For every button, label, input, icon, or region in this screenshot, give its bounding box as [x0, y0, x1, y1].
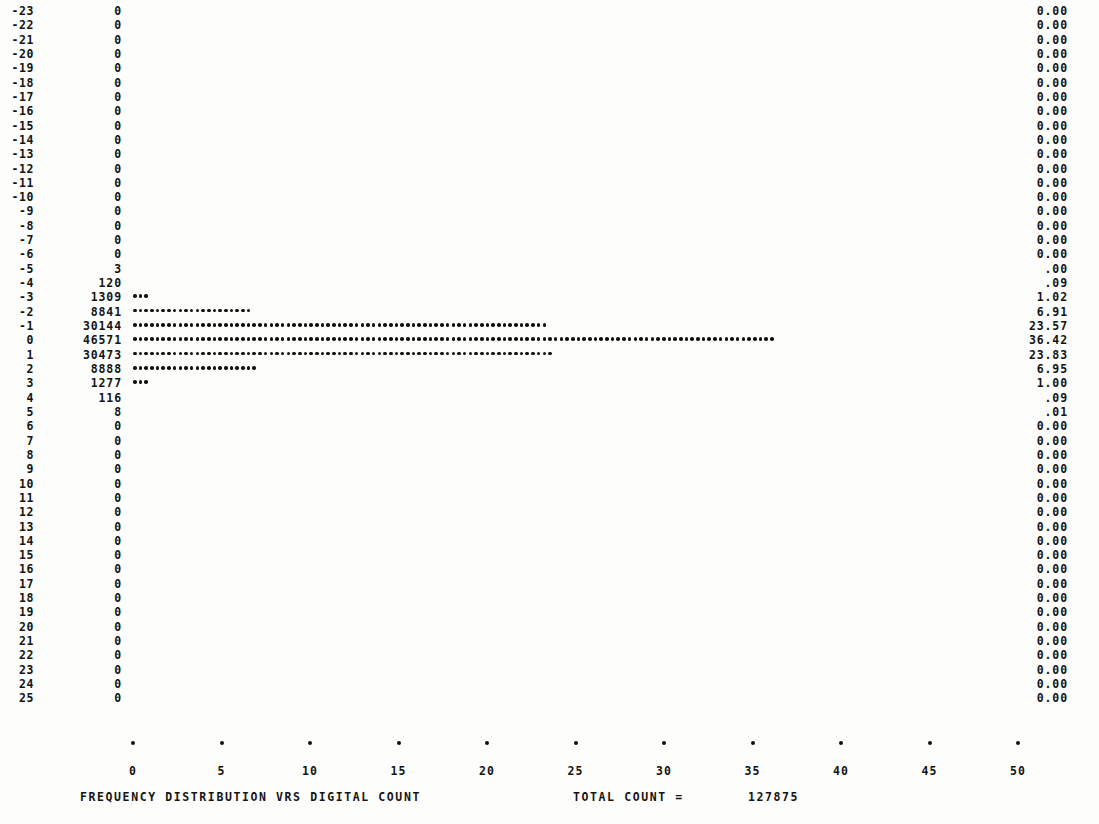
histogram-row: 312771.00 [0, 376, 1099, 390]
printout-sheet: -2300.00-2200.00-2100.00-2000.00-1900.00… [0, 0, 1099, 824]
histogram-row: 2000.00 [0, 620, 1099, 634]
bin-label: 25 [0, 691, 34, 705]
bin-percent: 1.02 [1000, 290, 1068, 304]
bin-percent: 0.00 [1000, 462, 1068, 476]
histogram-row: -1400.00 [0, 133, 1099, 147]
bin-count: 30144 [40, 319, 122, 333]
bin-count: 0 [40, 47, 122, 61]
histogram-row: 1400.00 [0, 534, 1099, 548]
bin-count: 0 [40, 190, 122, 204]
histogram-row: 1500.00 [0, 548, 1099, 562]
bin-bar [133, 366, 258, 373]
bin-label: -16 [0, 104, 34, 118]
bin-label: 4 [0, 391, 34, 405]
axis-tick-label: 10 [290, 764, 330, 778]
bin-percent: 0.00 [1000, 147, 1068, 161]
bin-label: -19 [0, 61, 34, 75]
bin-percent: 23.57 [1000, 319, 1068, 333]
bin-label: 11 [0, 491, 34, 505]
bin-label: 19 [0, 605, 34, 619]
bin-label: -20 [0, 47, 34, 61]
axis-tick-label: 50 [998, 764, 1038, 778]
histogram-row: 2500.00 [0, 691, 1099, 705]
bin-percent: 0.00 [1000, 119, 1068, 133]
bin-label: -21 [0, 33, 34, 47]
bin-percent: 0.00 [1000, 605, 1068, 619]
bin-count: 0 [40, 491, 122, 505]
histogram-row: 288886.95 [0, 362, 1099, 376]
bin-count: 0 [40, 204, 122, 218]
bin-count: 30473 [40, 348, 122, 362]
bin-count: 0 [40, 462, 122, 476]
bin-percent: 0.00 [1000, 90, 1068, 104]
histogram-row: 700.00 [0, 434, 1099, 448]
caption-total-label: TOTAL COUNT = [573, 790, 684, 804]
axis-tick-label: 15 [379, 764, 419, 778]
bin-label: 5 [0, 405, 34, 419]
axis-tick-label: 30 [644, 764, 684, 778]
axis-tick-dot [928, 741, 932, 745]
histogram-row: -1100.00 [0, 176, 1099, 190]
histogram-row: 1600.00 [0, 562, 1099, 576]
axis-tick-label: 45 [910, 764, 950, 778]
bin-count: 0 [40, 591, 122, 605]
bin-count: 0 [40, 520, 122, 534]
x-axis-tick-marks [0, 741, 1099, 753]
bin-count: 8841 [40, 305, 122, 319]
bin-count: 0 [40, 133, 122, 147]
bin-bar [133, 323, 548, 330]
bin-count: 0 [40, 76, 122, 90]
bin-percent: 0.00 [1000, 61, 1068, 75]
histogram-row: -1700.00 [0, 90, 1099, 104]
bin-label: 10 [0, 477, 34, 491]
bin-percent: 0.00 [1000, 620, 1068, 634]
bin-percent: 0.00 [1000, 76, 1068, 90]
bin-label: 0 [0, 333, 34, 347]
histogram-row: -1000.00 [0, 190, 1099, 204]
bin-bar [133, 309, 252, 316]
bin-label: 3 [0, 376, 34, 390]
bin-count: 0 [40, 634, 122, 648]
bin-label: 13 [0, 520, 34, 534]
histogram-row: -900.00 [0, 204, 1099, 218]
bin-count: 0 [40, 33, 122, 47]
bin-label: -1 [0, 319, 34, 333]
axis-tick-dot [839, 741, 843, 745]
bin-bar [133, 352, 554, 359]
bin-label: -6 [0, 247, 34, 261]
bin-count: 0 [40, 419, 122, 433]
bin-label: -11 [0, 176, 34, 190]
bin-percent: 0.00 [1000, 4, 1068, 18]
bin-count: 0 [40, 505, 122, 519]
bin-percent: 23.83 [1000, 348, 1068, 362]
bin-label: 7 [0, 434, 34, 448]
bin-count: 0 [40, 677, 122, 691]
bin-percent: 0.00 [1000, 434, 1068, 448]
bin-label: -2 [0, 305, 34, 319]
bin-count: 0 [40, 562, 122, 576]
bin-percent: .01 [1000, 405, 1068, 419]
bin-label: 23 [0, 663, 34, 677]
axis-tick-dot [1016, 741, 1020, 745]
bin-percent: 0.00 [1000, 520, 1068, 534]
chart-caption: FREQUENCY DISTRIBUTION VRS DIGITAL COUNT… [0, 790, 1099, 808]
histogram-row: 1800.00 [0, 591, 1099, 605]
bin-label: 21 [0, 634, 34, 648]
axis-tick-dot [308, 741, 312, 745]
bin-percent: .00 [1000, 262, 1068, 276]
axis-tick-label: 0 [113, 764, 153, 778]
histogram-row: -800.00 [0, 219, 1099, 233]
axis-tick-dot [485, 741, 489, 745]
bin-label: -7 [0, 233, 34, 247]
bin-percent: 0.00 [1000, 534, 1068, 548]
bin-bar [133, 337, 776, 344]
bin-percent: 1.00 [1000, 376, 1068, 390]
bin-percent: 0.00 [1000, 47, 1068, 61]
bin-percent: 0.00 [1000, 190, 1068, 204]
histogram-row: -700.00 [0, 233, 1099, 247]
bin-percent: 0.00 [1000, 591, 1068, 605]
histogram-row: 2300.00 [0, 663, 1099, 677]
histogram-row: 1100.00 [0, 491, 1099, 505]
caption-title: FREQUENCY DISTRIBUTION VRS DIGITAL COUNT [80, 790, 421, 804]
bin-count: 0 [40, 605, 122, 619]
